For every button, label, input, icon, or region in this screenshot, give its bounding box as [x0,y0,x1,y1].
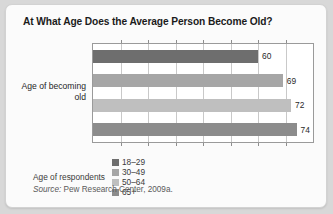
y-axis-label-text: Age of becoming old [22,81,87,102]
axis-tick [231,143,232,146]
bar-row: 74 [93,123,313,136]
axis-tick [176,143,177,146]
bar-row: 72 [93,99,313,112]
bar-series: 60697274 [93,44,313,142]
axis-tick [148,40,149,43]
axis-tick [231,40,232,43]
bar [93,74,283,87]
bar-row: 69 [93,74,313,87]
source-text: Pew Research Center, 2009a. [61,185,173,194]
bar-value-label: 74 [301,125,310,135]
bar [93,123,297,136]
legend-title: Age of respondents [33,172,105,182]
axis-tick [286,40,287,43]
axis-tick [176,40,177,43]
axis-tick [258,143,259,146]
axis-tick [286,143,287,146]
bar [93,50,258,63]
bar [93,99,291,112]
legend-item: 30–49 [112,167,145,177]
legend-swatch-icon [112,169,119,176]
source-note: Source: Pew Research Center, 2009a. [33,185,173,194]
page-title: At What Age Does the Average Person Beco… [23,16,272,27]
plot-area: 60697274 [92,43,314,143]
source-prefix: Source: [33,185,61,194]
bar-value-label: 69 [287,76,296,86]
legend-item: 18–29 [112,157,145,167]
y-axis-label: Age of becoming old [12,81,86,103]
axis-tick [203,40,204,43]
axis-tick [258,40,259,43]
bar-value-label: 72 [295,100,304,110]
axis-tick [148,143,149,146]
chart-card: At What Age Does the Average Person Beco… [5,4,327,208]
legend-item-label: 18–29 [122,157,145,167]
axis-tick [121,40,122,43]
bar-row: 60 [93,50,313,63]
axis-tick [121,143,122,146]
bar-value-label: 60 [262,51,271,61]
axis-tick [203,143,204,146]
legend-item-label: 30–49 [122,167,145,177]
legend-swatch-icon [112,159,119,166]
